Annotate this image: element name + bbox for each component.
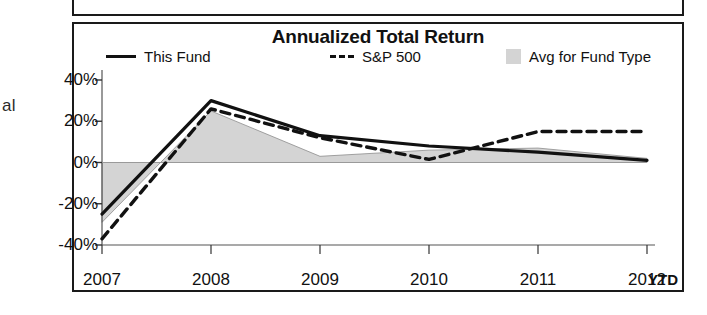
x-axis-label-2011: 2011 bbox=[520, 270, 557, 290]
x-axis-label-2008: 2008 bbox=[192, 270, 230, 290]
x-axis-label-2009: 2009 bbox=[301, 270, 339, 290]
panel-fragment-above bbox=[72, 0, 684, 16]
x-axis-label-2010: 2010 bbox=[410, 270, 448, 290]
left-margin-text-fragment: al bbox=[2, 96, 16, 116]
chart-plot-area bbox=[74, 24, 686, 294]
annualized-total-return-chart-panel: Annualized Total Return This Fund S&P 50… bbox=[72, 22, 684, 292]
y-axis-label: -20% bbox=[40, 194, 98, 214]
x-axis-label-2007: 2007 bbox=[83, 270, 121, 290]
y-axis-label: 20% bbox=[40, 111, 98, 131]
y-axis-label: -40% bbox=[40, 235, 98, 255]
ytd-annotation: YTD bbox=[648, 271, 678, 288]
y-axis-label: 0% bbox=[40, 153, 98, 173]
y-axis-label: 40% bbox=[40, 70, 98, 90]
